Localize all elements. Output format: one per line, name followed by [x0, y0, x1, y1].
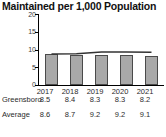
data-table: Greensboro 8.5 8.4 8.3 8.3 8.2 Average 8… — [0, 93, 166, 137]
cell-greensboro-2017: 8.5 — [34, 96, 56, 104]
cell-average-2021: 9.1 — [134, 111, 156, 119]
plot-area: 20 15 10 5 0 — [0, 14, 166, 94]
y-tick-label-5: 5 — [22, 64, 36, 71]
chart-axes — [38, 14, 164, 86]
average-line-path — [52, 52, 152, 54]
average-line — [38, 14, 164, 86]
cell-greensboro-2019: 8.3 — [84, 96, 106, 104]
cell-average-2020: 9.2 — [109, 111, 131, 119]
table-row: Greensboro 8.5 8.4 8.3 8.3 8.2 — [0, 93, 166, 108]
y-tick-label-15: 15 — [22, 28, 36, 35]
y-tick-label-20: 20 — [22, 11, 36, 18]
table-row: Average 8.6 8.7 9.2 9.2 9.1 — [0, 108, 166, 123]
y-tick-label-0: 0 — [22, 81, 36, 88]
cell-average-2018: 8.7 — [59, 111, 81, 119]
cell-average-2019: 9.2 — [84, 111, 106, 119]
cell-greensboro-2018: 8.4 — [59, 96, 81, 104]
y-axis-tick-labels: 20 15 10 5 0 — [20, 14, 36, 86]
row-header-average: Average — [2, 111, 30, 119]
cell-average-2017: 8.6 — [34, 111, 56, 119]
y-tick-label-10: 10 — [22, 46, 36, 53]
chart-widget: Maintained per 1,000 Population 20 15 10… — [0, 0, 166, 137]
cell-greensboro-2021: 8.2 — [134, 96, 156, 104]
cell-greensboro-2020: 8.3 — [109, 96, 131, 104]
